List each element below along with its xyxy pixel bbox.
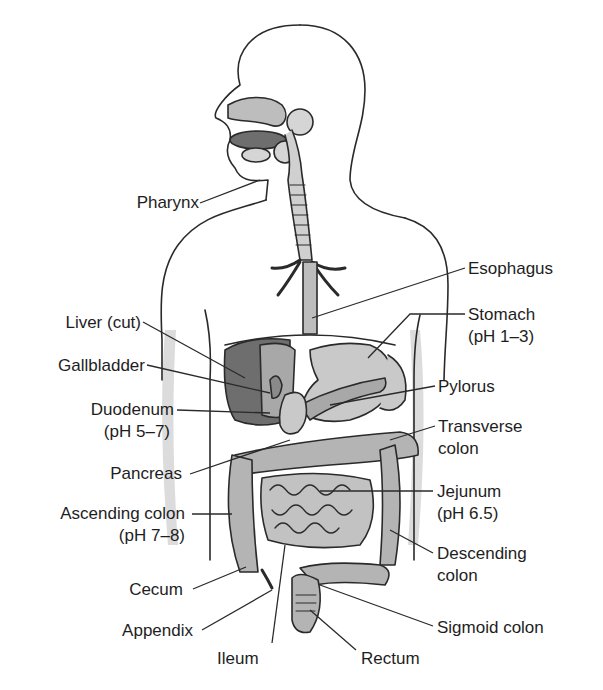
label-transverse-colon-2: colon [438, 438, 479, 459]
label-transverse-colon: Transverse [438, 416, 522, 437]
label-duodenum: Duodenum [91, 399, 174, 420]
label-pylorus: Pylorus [438, 376, 495, 397]
label-esophagus: Esophagus [468, 258, 553, 279]
label-gallbladder: Gallbladder [58, 355, 145, 376]
label-descending-colon-2: colon [437, 565, 478, 586]
label-sigmoid-colon: Sigmoid colon [437, 617, 544, 638]
label-jejunum: Jejunum [437, 481, 501, 502]
label-jejunum-ph: (pH 6.5) [437, 503, 498, 524]
label-duodenum-ph: (pH 5–7) [104, 421, 170, 442]
label-appendix: Appendix [122, 620, 193, 641]
label-pancreas: Pancreas [110, 463, 182, 484]
label-liver: Liver (cut) [65, 312, 141, 333]
label-stomach: Stomach [468, 304, 535, 325]
label-descending-colon: Descending [437, 543, 527, 564]
label-cecum: Cecum [129, 579, 183, 600]
label-pharynx: Pharynx [137, 192, 199, 213]
label-stomach-ph: (pH 1–3) [468, 326, 534, 347]
label-rectum: Rectum [361, 648, 420, 669]
label-ascending-colon: Ascending colon [60, 503, 185, 524]
digestive-system-diagram: Pharynx Esophagus Liver (cut) Stomach (p… [0, 0, 603, 690]
label-ileum: Ileum [217, 648, 259, 669]
label-ascending-colon-ph: (pH 7–8) [119, 525, 185, 546]
